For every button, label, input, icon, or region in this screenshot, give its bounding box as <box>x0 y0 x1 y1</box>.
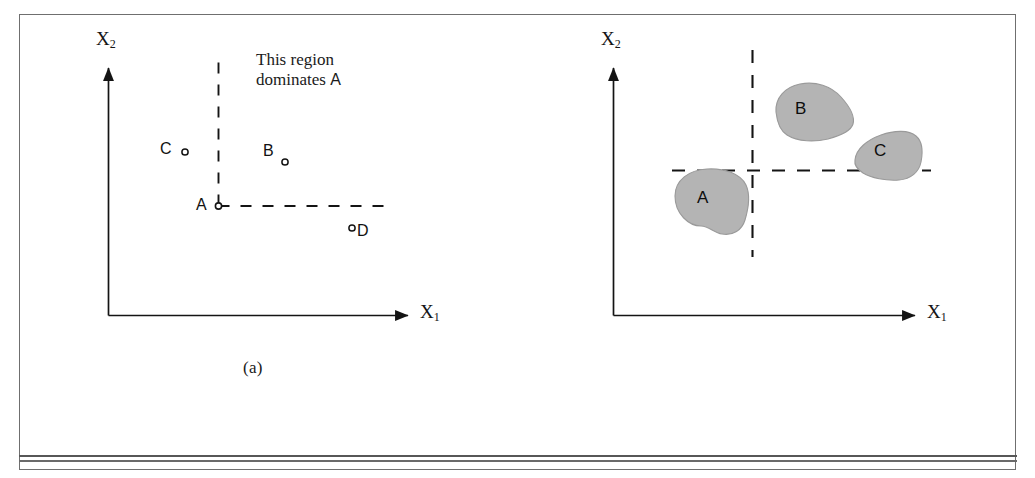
x-axis-label: X1 <box>927 301 947 325</box>
data-point-c <box>182 149 188 155</box>
region-label-b: B <box>795 99 806 119</box>
point-label-b: B <box>263 142 274 160</box>
panel-a: X2 X1 This region dominates A A B C D (a… <box>0 0 517 478</box>
annotation-point-ref: A <box>330 71 341 88</box>
data-point-d <box>349 225 355 231</box>
region-label-a: A <box>697 188 708 208</box>
region-blob-a <box>675 169 749 234</box>
region-blob-c <box>855 131 922 180</box>
dominance-annotation: This region dominates A <box>256 50 341 90</box>
x-axis-label: X1 <box>420 301 440 325</box>
region-blob-b <box>776 83 854 141</box>
data-point-a <box>215 203 221 209</box>
y-axis-label: X2 <box>601 28 621 52</box>
point-label-d: D <box>357 222 369 240</box>
figure-container: X2 X1 This region dominates A A B C D (a… <box>0 0 1035 478</box>
panel-b: X2 X1 A B C (b) <box>517 0 1035 478</box>
annotation-line-1: This region <box>256 50 341 70</box>
data-point-b <box>282 159 288 165</box>
panel-a-caption: (a) <box>243 358 263 378</box>
point-label-a: A <box>196 196 207 214</box>
panel-b-plot <box>517 0 1035 420</box>
annotation-line-2: dominates A <box>256 70 341 90</box>
region-label-c: C <box>874 141 886 161</box>
point-label-c: C <box>160 140 172 158</box>
y-axis-label: X2 <box>96 28 116 52</box>
